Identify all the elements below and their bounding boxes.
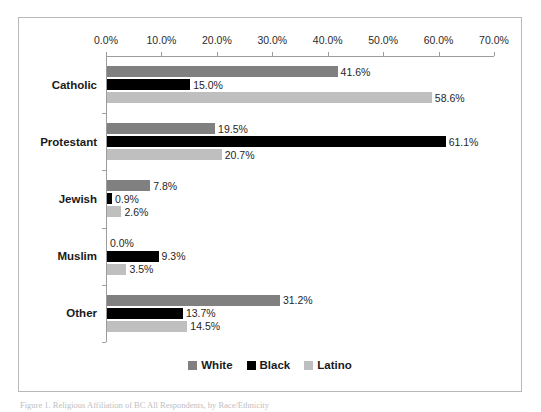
bar-latino[interactable]: [107, 149, 222, 160]
x-axis-tick-label: 0.0%: [94, 34, 118, 46]
category-label: Jewish: [59, 193, 97, 205]
x-axis-tick-labels: 0.0%10.0%20.0%30.0%40.0%50.0%60.0%70.0%: [19, 34, 521, 50]
bar-value-label: 2.6%: [124, 206, 148, 218]
bar-value-label: 31.2%: [283, 294, 313, 306]
bar-black[interactable]: [107, 136, 446, 147]
category-group: Muslim0.0%9.3%3.5%: [106, 228, 494, 285]
category-label: Other: [66, 307, 97, 319]
bar-black[interactable]: [107, 193, 112, 204]
bar-row: 19.5%: [106, 123, 494, 134]
category-label: Muslim: [57, 250, 97, 262]
legend-item-latino[interactable]: Latino: [304, 359, 352, 371]
bar-row: 9.3%: [106, 251, 494, 262]
category-group: Catholic41.6%15.0%58.6%: [106, 56, 494, 113]
x-axis-tick-label: 10.0%: [147, 34, 177, 46]
bar-value-label: 19.5%: [218, 123, 248, 135]
bar-value-label: 9.3%: [162, 250, 186, 262]
bar-row: 31.2%: [106, 295, 494, 306]
bar-latino[interactable]: [107, 206, 121, 217]
bar-row: 61.1%: [106, 136, 494, 147]
legend-label: Black: [260, 359, 291, 371]
bar-row: 15.0%: [106, 79, 494, 90]
category-label: Catholic: [52, 79, 97, 91]
category-group: Other31.2%13.7%14.5%: [106, 285, 494, 342]
bar-value-label: 7.8%: [153, 180, 177, 192]
bar-row: 13.7%: [106, 308, 494, 319]
bar-black[interactable]: [107, 308, 183, 319]
figure-caption: Figure 1. Religious Affiliation of BC Al…: [20, 400, 520, 410]
bar-white[interactable]: [107, 295, 280, 306]
bar-row: 0.9%: [106, 193, 494, 204]
bar-value-label: 41.6%: [341, 66, 371, 78]
plot-area: Catholic41.6%15.0%58.6%Protestant19.5%61…: [106, 56, 494, 342]
legend-swatch-icon: [247, 361, 256, 370]
chart-frame: 0.0%10.0%20.0%30.0%40.0%50.0%60.0%70.0% …: [18, 17, 522, 392]
bar-value-label: 14.5%: [190, 320, 220, 332]
x-axis-tick-mark: [494, 52, 495, 56]
bar-value-label: 0.0%: [110, 237, 134, 249]
bar-row: 7.8%: [106, 180, 494, 191]
legend-swatch-icon: [188, 361, 197, 370]
bar-value-label: 61.1%: [449, 136, 479, 148]
bar-latino[interactable]: [107, 92, 432, 103]
category-label: Protestant: [40, 136, 97, 148]
x-axis-tick-label: 30.0%: [257, 34, 287, 46]
bar-row: 3.5%: [106, 264, 494, 275]
x-axis-tick-label: 70.0%: [479, 34, 509, 46]
bar-row: 41.6%: [106, 66, 494, 77]
x-axis-tick-label: 50.0%: [368, 34, 398, 46]
bar-value-label: 15.0%: [193, 79, 223, 91]
legend-label: Latino: [317, 359, 352, 371]
bar-value-label: 3.5%: [129, 263, 153, 275]
legend-swatch-icon: [304, 361, 313, 370]
category-group: Protestant19.5%61.1%20.7%: [106, 113, 494, 170]
bar-value-label: 0.9%: [115, 193, 139, 205]
bar-row: 2.6%: [106, 206, 494, 217]
x-axis-tick-label: 20.0%: [202, 34, 232, 46]
bar-value-label: 20.7%: [225, 149, 255, 161]
bar-row: 0.0%: [106, 238, 494, 249]
bar-latino[interactable]: [107, 321, 187, 332]
legend-item-black[interactable]: Black: [247, 359, 291, 371]
bar-white[interactable]: [107, 180, 150, 191]
y-axis-tick-mark: [102, 342, 106, 343]
x-axis-tick-label: 40.0%: [313, 34, 343, 46]
bar-row: 58.6%: [106, 92, 494, 103]
chart-legend: WhiteBlackLatino: [19, 359, 521, 371]
bar-row: 20.7%: [106, 149, 494, 160]
legend-item-white[interactable]: White: [188, 359, 232, 371]
bar-latino[interactable]: [107, 264, 126, 275]
bar-black[interactable]: [107, 251, 159, 262]
bar-row: 14.5%: [106, 321, 494, 332]
bar-white[interactable]: [107, 123, 215, 134]
bar-value-label: 13.7%: [186, 307, 216, 319]
category-group: Jewish7.8%0.9%2.6%: [106, 170, 494, 227]
legend-label: White: [201, 359, 232, 371]
bar-black[interactable]: [107, 79, 190, 90]
x-axis-tick-label: 60.0%: [424, 34, 454, 46]
bar-value-label: 58.6%: [435, 92, 465, 104]
bar-white[interactable]: [107, 66, 338, 77]
